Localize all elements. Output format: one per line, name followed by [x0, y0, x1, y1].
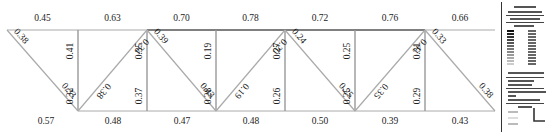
legend-value — [528, 45, 536, 47]
member-label: 0.19 — [233, 82, 252, 101]
member-label: 0.26 — [272, 87, 282, 104]
legend-panel — [501, 2, 548, 132]
member-label: 0.38 — [12, 26, 31, 45]
legend-text — [508, 80, 534, 82]
member-label: 0.78 — [242, 13, 259, 23]
legend-subtitle — [510, 18, 540, 20]
member-label: 0.66 — [452, 13, 469, 23]
legend-value — [528, 39, 536, 41]
legend-divider — [506, 103, 544, 104]
member-label: 0.41 — [65, 42, 75, 59]
legend-divider — [506, 88, 544, 89]
legend-divider — [506, 15, 544, 16]
legend-divider — [506, 77, 544, 78]
legend-value — [528, 30, 536, 32]
truss-diagram: 0.450.630.700.780.720.760.660.570.480.47… — [0, 0, 500, 136]
legend-text — [508, 91, 546, 93]
member-label: 0.45 — [34, 13, 51, 23]
legend-value — [528, 63, 536, 65]
member-label: 0.76 — [382, 13, 399, 23]
member-label: 0.63 — [104, 13, 121, 23]
legend-title-line — [514, 6, 536, 8]
member-label: 0.43 — [198, 81, 217, 100]
member-label: 0.37 — [134, 87, 144, 104]
legend-divider — [506, 22, 544, 23]
member-label: 0.33 — [430, 27, 449, 46]
legend-value — [528, 42, 536, 44]
member-label: 0.70 — [173, 13, 190, 23]
legend-color-swatch — [507, 63, 514, 65]
member-label: 0.33 — [60, 81, 79, 100]
member-label: 0.19 — [203, 42, 213, 59]
legend-title-line — [508, 11, 542, 13]
legend-value — [528, 33, 536, 35]
legend-value — [528, 57, 536, 59]
member-label: 0.47 — [174, 116, 191, 126]
legend-text — [508, 123, 518, 125]
legend-text — [508, 111, 518, 113]
member-label: 0.38 — [477, 81, 496, 100]
legend-text — [508, 95, 516, 97]
member-label: 0.25 — [342, 42, 352, 59]
legend-text — [518, 106, 532, 108]
member-label: 0.39 — [382, 116, 399, 126]
member-label: 0.35 — [372, 82, 391, 101]
legend-value — [528, 51, 536, 53]
member-label: 0.72 — [312, 13, 329, 23]
member-label: 0.48 — [243, 116, 260, 126]
legend-text — [508, 117, 518, 119]
legend-value — [528, 48, 536, 50]
legend-text — [508, 72, 544, 74]
member-label: 0.29 — [412, 87, 422, 104]
legend-text — [508, 84, 532, 86]
member-label: 0.38 — [95, 82, 114, 101]
member-label: 0.43 — [452, 116, 469, 126]
member-label: 0.57 — [38, 116, 55, 126]
legend-value — [528, 60, 536, 62]
legend-value — [528, 36, 536, 38]
axis-icon — [532, 107, 546, 123]
legend-text — [508, 99, 540, 101]
member-label: 0.48 — [105, 116, 122, 126]
member-label: 0.50 — [312, 116, 329, 126]
legend-unit — [514, 25, 534, 27]
member-label: 0.25 — [337, 81, 356, 100]
legend-value — [528, 54, 536, 56]
diagonal-member — [425, 30, 495, 111]
